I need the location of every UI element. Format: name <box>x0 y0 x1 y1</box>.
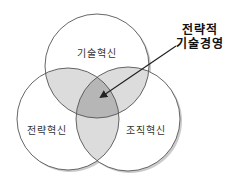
label-strategy-innovation: 전략혁신 <box>27 122 67 137</box>
callout-line-1: 전략적 <box>176 23 224 37</box>
callout-strategic-tech-management: 전략적 기술경영 <box>176 23 224 51</box>
callout-line-2: 기술경영 <box>176 37 224 51</box>
label-org-innovation: 조직혁신 <box>126 122 166 137</box>
venn-diagram: 기술혁신 전략혁신 조직혁신 전략적 기술경영 <box>0 0 237 187</box>
label-tech-innovation: 기술혁신 <box>77 45 117 60</box>
